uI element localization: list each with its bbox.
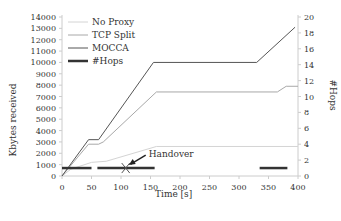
y2-axis-label: #Hops [328, 79, 338, 111]
y-axis-label: Kbytes received [8, 83, 18, 156]
y-tick-label: 12000 [31, 36, 56, 45]
x-tick-label: 50 [86, 183, 96, 192]
y2-tick-label: 16 [304, 45, 314, 54]
y-tick-label: 0 [51, 172, 56, 181]
y2-tick-label: 18 [304, 29, 314, 38]
y2-tick-label: 0 [304, 172, 309, 181]
y-tick-label: 10000 [31, 58, 56, 67]
y2-tick-label: 2 [304, 156, 309, 165]
x-tick-label: 100 [113, 183, 128, 192]
axes: 0100020003000400050006000700080009000100… [31, 13, 315, 192]
legend-label: No Proxy [92, 17, 135, 27]
x-tick-label: 250 [202, 183, 217, 192]
y-tick-label: 2000 [36, 149, 56, 158]
y-tick-label: 8000 [36, 81, 56, 90]
y2-tick-label: 14 [304, 61, 314, 70]
series-tcp-split [62, 86, 298, 176]
legend-label: MOCCA [92, 43, 129, 53]
legend: No ProxyTCP SplitMOCCA#Hops [68, 17, 135, 66]
y-tick-label: 6000 [36, 104, 56, 113]
y2-tick-label: 20 [304, 13, 314, 22]
legend-label: #Hops [92, 56, 124, 66]
x-tick-label: 300 [231, 183, 246, 192]
y-tick-label: 5000 [36, 115, 56, 124]
line-chart: 0100020003000400050006000700080009000100… [0, 0, 341, 221]
y-tick-label: 14000 [31, 13, 56, 22]
y-tick-label: 3000 [36, 138, 56, 147]
y2-tick-label: 8 [304, 108, 309, 117]
x-axis-label: Time [s] [155, 189, 192, 199]
y2-tick-label: 10 [304, 93, 314, 102]
legend-label: TCP Split [92, 30, 135, 40]
y-tick-label: 9000 [36, 70, 56, 79]
y-tick-label: 13000 [31, 24, 56, 33]
x-tick-label: 350 [261, 183, 276, 192]
handover-label: Handover [149, 149, 195, 159]
y-tick-label: 1000 [36, 161, 56, 170]
chart-container: 0100020003000400050006000700080009000100… [0, 0, 341, 221]
y-tick-label: 11000 [31, 47, 56, 56]
y2-tick-label: 12 [304, 77, 314, 86]
y-tick-label: 7000 [36, 93, 56, 102]
y2-tick-label: 6 [304, 124, 309, 133]
x-tick-label: 0 [59, 183, 64, 192]
x-tick-label: 400 [290, 183, 305, 192]
y2-tick-label: 4 [304, 140, 309, 149]
y-tick-label: 4000 [36, 127, 56, 136]
